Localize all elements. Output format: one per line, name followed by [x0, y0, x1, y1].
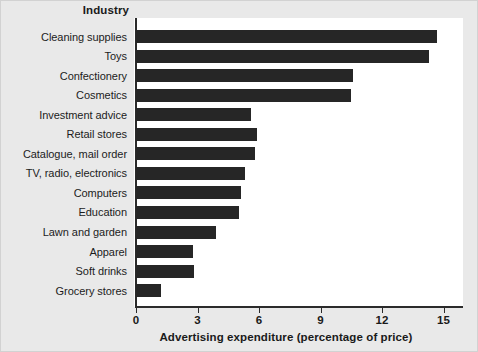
bar	[136, 147, 255, 160]
category-label: TV, radio, electronics	[26, 167, 127, 180]
category-label: Education	[79, 206, 127, 219]
bar	[136, 186, 241, 199]
x-tick-mark	[321, 308, 322, 313]
x-axis-title: Advertising expenditure (percentage of p…	[1, 331, 478, 343]
category-label: Soft drinks	[76, 265, 127, 278]
bar	[136, 284, 161, 297]
x-tick-label: 9	[317, 314, 323, 326]
chart-figure: Industry Cleaning suppliesToysConfection…	[0, 0, 478, 352]
x-tick-mark	[444, 308, 445, 313]
category-label: Confectionery	[60, 70, 127, 83]
x-tick-mark	[198, 308, 199, 313]
bar	[136, 245, 193, 258]
bar	[136, 265, 194, 278]
bar	[136, 50, 429, 63]
x-tick-label: 0	[133, 314, 139, 326]
bar	[136, 128, 257, 141]
x-tick-mark	[136, 308, 137, 313]
bar	[136, 108, 251, 121]
category-label: Grocery stores	[56, 285, 127, 298]
bar	[136, 30, 437, 43]
category-label: Retail stores	[67, 128, 127, 141]
bars-layer	[136, 18, 463, 307]
bar	[136, 89, 351, 102]
x-tick-label: 3	[194, 314, 200, 326]
x-tick-label: 15	[437, 314, 450, 326]
category-label: Toys	[105, 50, 127, 63]
bar	[136, 226, 216, 239]
x-tick-mark	[382, 308, 383, 313]
bar	[136, 69, 353, 82]
bar	[136, 206, 239, 219]
x-tick-mark	[259, 308, 260, 313]
y-axis-header: Industry	[83, 4, 129, 16]
x-tick-label: 6	[256, 314, 262, 326]
category-label: Investment advice	[39, 109, 127, 122]
category-label: Cosmetics	[76, 89, 127, 102]
category-label-column: Cleaning suppliesToysConfectioneryCosmet…	[1, 18, 131, 307]
category-label: Lawn and garden	[43, 226, 127, 239]
category-label: Apparel	[89, 246, 127, 259]
category-label: Computers	[74, 187, 127, 200]
category-label: Cleaning supplies	[41, 31, 127, 44]
x-tick-label: 12	[376, 314, 389, 326]
category-label: Catalogue, mail order	[23, 148, 127, 161]
bar	[136, 167, 245, 180]
